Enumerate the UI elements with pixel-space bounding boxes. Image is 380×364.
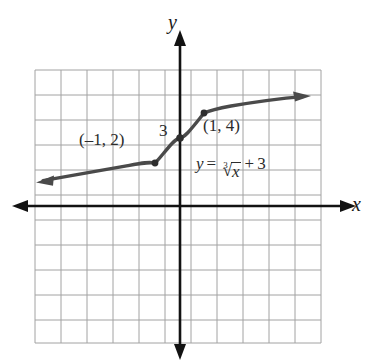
cube-root-curve xyxy=(36,91,311,185)
equation-expression: y = 3 √ x + 3 xyxy=(196,155,266,180)
equation-equals-sign: = xyxy=(207,155,217,172)
cube-root-radical: 3 √ x xyxy=(220,162,240,180)
x-axis xyxy=(12,200,356,212)
curve-arrow-right xyxy=(293,91,311,101)
equation-label: y = 3 √ x + 3 xyxy=(196,155,266,180)
equation-constant: 3 xyxy=(257,155,266,172)
equation-plus-sign: + xyxy=(245,155,255,172)
point-label-1-4: (1, 4) xyxy=(203,117,240,134)
point-marker-0-3 xyxy=(176,134,184,142)
y-intercept-label: 3 xyxy=(159,122,168,139)
equation-lhs: y xyxy=(196,155,204,172)
x-axis-label: x xyxy=(352,194,361,214)
graph-figure: y x (–1, 2) 3 (1, 4) y = 3 √ x + 3 xyxy=(0,0,380,364)
point-marker-neg1-2 xyxy=(152,160,159,167)
radical-index: 3 xyxy=(223,161,228,170)
y-axis-arrow-down xyxy=(174,344,186,360)
curve-arrow-left xyxy=(36,176,54,186)
y-axis-label: y xyxy=(168,12,177,32)
radicand: x xyxy=(231,162,241,180)
x-axis-arrow-left xyxy=(12,200,28,212)
coordinate-plane xyxy=(0,0,380,364)
point-label-neg1-2: (–1, 2) xyxy=(79,131,124,148)
